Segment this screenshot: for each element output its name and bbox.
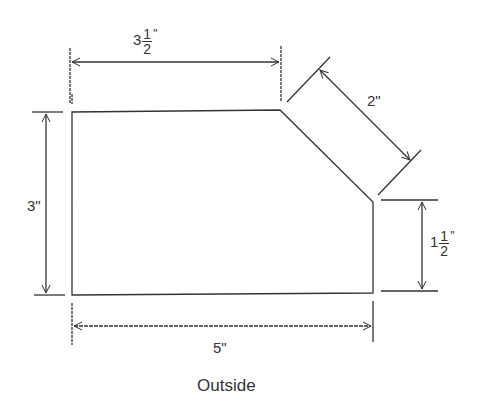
- top-num: 1: [142, 27, 152, 42]
- right-whole: 1: [430, 233, 438, 250]
- diagonal-dimension-label: 2": [367, 92, 381, 109]
- right-unit: ": [450, 229, 454, 243]
- right-fraction: 12: [439, 229, 449, 258]
- right-num: 1: [439, 229, 449, 244]
- bottom-dimension-label: 5": [213, 339, 227, 356]
- top-unit: ": [153, 27, 157, 41]
- top-whole: 3: [133, 31, 141, 48]
- left-dimension-label: 3": [27, 197, 41, 214]
- right-den: 2: [440, 244, 448, 258]
- right-dimension-label: 112": [430, 229, 454, 258]
- top-den: 2: [143, 42, 151, 56]
- diagram-canvas: [0, 0, 486, 406]
- shape-outline: [72, 110, 373, 295]
- top-dimension-label: 312": [133, 27, 157, 56]
- diagram-caption: Outside: [197, 376, 256, 396]
- top-fraction: 12: [142, 27, 152, 56]
